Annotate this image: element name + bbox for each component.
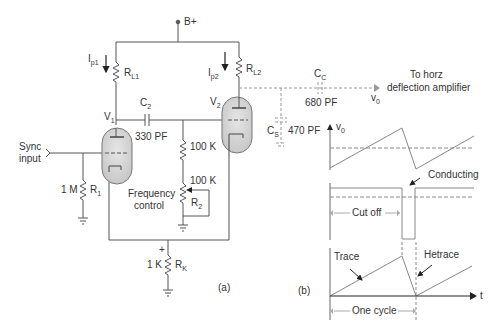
- resistor-rl1: [113, 62, 119, 82]
- output-label-line2: deflection amplifier: [387, 83, 470, 93]
- potentiometer-r2: [180, 183, 186, 203]
- trace-label: Trace: [334, 252, 359, 262]
- output-label-line1: To horz: [410, 70, 443, 80]
- rk-sub: K: [182, 265, 187, 272]
- ip1-sub: p1: [91, 59, 99, 66]
- waveform-vo: [330, 128, 474, 170]
- grid-resistor-value: 100 K: [190, 142, 216, 152]
- v2-text: V: [210, 96, 217, 107]
- r1-value: 1 M: [61, 185, 78, 195]
- rl1-sub: L1: [131, 73, 139, 80]
- resistor-rl2: [236, 57, 242, 77]
- t-axis-label: t: [480, 291, 483, 301]
- tube-v2: [222, 97, 252, 158]
- c2-value: 330 PF: [135, 132, 167, 142]
- rl2-sub: L2: [253, 69, 261, 76]
- ip2-label: Ip2: [208, 68, 219, 78]
- ip2-sub: p2: [211, 73, 219, 80]
- cut-off-label: Cut off: [352, 208, 381, 218]
- pot-value: 100 K: [190, 176, 216, 186]
- tube-v1: [102, 128, 132, 184]
- output-v-sub: 0: [376, 98, 380, 105]
- cs-value: 470 PF: [288, 126, 320, 136]
- panel-b-label: (b): [298, 286, 310, 296]
- resistor-r1: [80, 180, 86, 200]
- v2-label: V2: [210, 97, 221, 107]
- frequency-control-line1: Frequency: [128, 189, 175, 199]
- rl1-label: RL1: [124, 68, 139, 78]
- output-v-label: v0: [371, 93, 380, 103]
- circuit-diagram: [0, 0, 495, 335]
- sync-input-line2: input: [19, 154, 41, 164]
- cathode-plus: +: [159, 245, 165, 255]
- frequency-control-line2: control: [134, 201, 164, 211]
- cc-value: 680 PF: [305, 98, 337, 108]
- resistor-rk: [165, 255, 171, 275]
- sync-input-line1: Sync: [19, 142, 41, 152]
- bplus-label: B+: [184, 17, 197, 27]
- r1-label: R1: [90, 185, 101, 195]
- v1-sub: 1: [111, 117, 115, 124]
- c2-label: C2: [140, 98, 151, 108]
- ip1-label: Ip1: [88, 54, 99, 64]
- v1-text: V: [104, 111, 111, 122]
- cs-label: CS: [267, 126, 279, 136]
- vo-axis-sub: 0: [341, 127, 345, 134]
- cc-label: CC: [314, 69, 326, 79]
- conducting-label: Conducting: [428, 170, 479, 180]
- resistor-100k: [180, 140, 186, 160]
- vo-axis-label: v0: [336, 122, 345, 132]
- cs-sub: S: [274, 131, 279, 138]
- rl2-label: RL2: [246, 64, 261, 74]
- rk-label: RK: [175, 260, 187, 270]
- r2-label: R2: [191, 198, 202, 208]
- retrace-label: Hetrace: [424, 250, 459, 260]
- r2-sub: 2: [198, 203, 202, 210]
- rk-value: 1 K: [147, 260, 162, 270]
- v1-label: V1: [104, 112, 115, 122]
- c2-sub: 2: [147, 103, 151, 110]
- panel-a-label: (a): [218, 283, 230, 293]
- v2-sub: 2: [217, 102, 221, 109]
- r1-sub: 1: [97, 190, 101, 197]
- cc-sub: C: [321, 74, 326, 81]
- one-cycle-label: One cycle: [352, 306, 396, 316]
